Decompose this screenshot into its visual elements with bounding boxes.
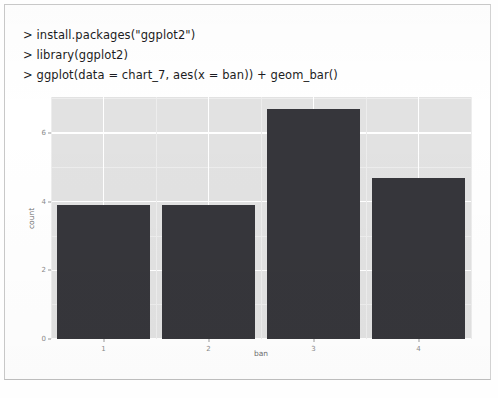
- page-frame: > install.packages("ggplot2") > library(…: [4, 4, 491, 380]
- console-line-library: > library(ggplot2): [23, 45, 463, 65]
- y-axis-tick-label: 2: [42, 266, 46, 274]
- x-axis-tick-mark: [313, 339, 314, 342]
- y-axis-label: count: [26, 97, 38, 339]
- y-axis-tick-label: 6: [42, 129, 46, 137]
- console-line-install: > install.packages("ggplot2"): [23, 25, 463, 45]
- y-axis-tick-mark: [48, 270, 51, 271]
- scanned-page: > install.packages("ggplot2") > library(…: [0, 0, 498, 398]
- x-axis-label: ban: [51, 349, 471, 358]
- y-axis-tick-mark: [48, 201, 51, 202]
- bar-1: [57, 205, 150, 339]
- plot-panel: 02461234: [51, 97, 471, 339]
- gridline-minor-vertical: [261, 97, 262, 339]
- y-axis-tick-label: 4: [42, 198, 46, 206]
- console-line-ggplot: > ggplot(data = chart_7, aes(x = ban)) +…: [23, 65, 463, 85]
- gridline-minor-vertical: [156, 97, 157, 339]
- y-axis-tick-label: 0: [42, 335, 46, 343]
- bar-3: [267, 109, 360, 339]
- x-axis-label-text: ban: [254, 349, 268, 358]
- bar-2: [162, 205, 255, 339]
- bar-4: [372, 178, 465, 339]
- ggplot-bar-chart: count 02461234 ban: [30, 93, 477, 368]
- x-axis-tick-mark: [103, 339, 104, 342]
- x-axis-tick-mark: [418, 339, 419, 342]
- gridline-minor-vertical: [366, 97, 367, 339]
- y-axis-tick-mark: [48, 133, 51, 134]
- y-axis-tick-mark: [48, 339, 51, 340]
- x-axis-tick-mark: [208, 339, 209, 342]
- gridline-minor-vertical: [471, 97, 472, 339]
- r-console-transcript: > install.packages("ggplot2") > library(…: [23, 25, 463, 85]
- y-axis-label-text: count: [28, 207, 37, 228]
